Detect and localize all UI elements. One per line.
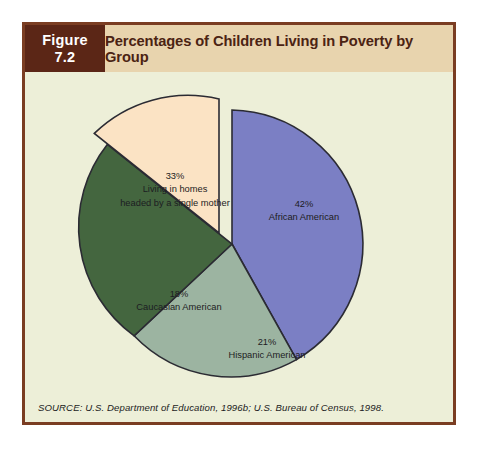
figure-label-number: 7.2	[55, 49, 76, 65]
source-note: SOURCE: U.S. Department of Education, 19…	[38, 402, 440, 413]
figure-title: Percentages of Children Living in Povert…	[105, 25, 453, 72]
figure-container: Figure 7.2 Percentages of Children Livin…	[22, 22, 456, 425]
figure-number-block: Figure 7.2	[25, 25, 105, 72]
pie-chart: 33% Living in homes headed by a single m…	[25, 72, 453, 390]
pie-chart-svg	[25, 72, 453, 390]
chart-panel: 33% Living in homes headed by a single m…	[25, 72, 453, 422]
figure-header: Figure 7.2 Percentages of Children Livin…	[25, 25, 453, 72]
figure-label-word: Figure	[42, 32, 88, 48]
